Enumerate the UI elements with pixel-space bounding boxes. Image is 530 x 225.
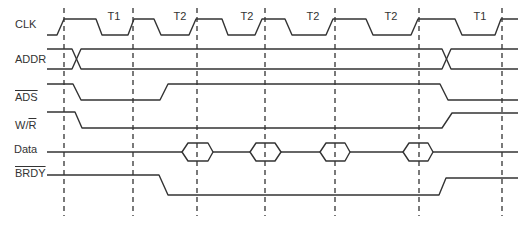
state-label: T1 <box>474 10 487 22</box>
signal-label-brdy: BRDY <box>15 167 46 179</box>
state-label: T2 <box>307 10 320 22</box>
signal-label-r: R <box>28 119 36 131</box>
addr-waveform <box>47 49 518 69</box>
signal-label-wr: W/R <box>15 119 36 131</box>
waveforms <box>0 0 530 225</box>
data-waveform <box>47 143 518 161</box>
ads-waveform <box>47 84 518 100</box>
brdy-waveform <box>47 175 518 195</box>
signal-label-ads: ADS <box>15 91 38 103</box>
signal-label-w: W/ <box>15 119 28 131</box>
state-label: T2 <box>241 10 254 22</box>
state-label: T2 <box>174 10 187 22</box>
signal-label-clk: CLK <box>15 18 36 30</box>
clock-edge-markers <box>64 8 502 216</box>
signal-label-addr: ADDR <box>15 53 46 65</box>
wr-waveform <box>47 112 518 128</box>
state-label: T2 <box>385 10 398 22</box>
signal-label-data: Data <box>14 143 37 155</box>
state-label: T1 <box>108 10 121 22</box>
